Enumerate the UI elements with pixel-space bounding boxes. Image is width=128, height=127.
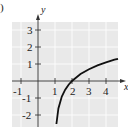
- x-tick-label: 2: [70, 86, 76, 97]
- y-axis-label: y: [41, 5, 45, 15]
- y-tick-label: 3: [27, 25, 33, 36]
- x-tick-label: 4: [103, 86, 109, 97]
- y-axis-arrow-icon: [36, 14, 40, 20]
- y-tick-label: 1: [27, 59, 33, 70]
- x-tick-label: -1: [13, 86, 22, 97]
- y-tick-label: 2: [27, 42, 33, 53]
- y-tick-label: -1: [22, 93, 31, 104]
- x-tick-label: 3: [86, 86, 92, 97]
- x-tick-label: 1: [52, 86, 58, 97]
- x-axis-label: x: [124, 82, 128, 92]
- y-tick-label: -2: [22, 110, 31, 121]
- chart: [0, 0, 128, 127]
